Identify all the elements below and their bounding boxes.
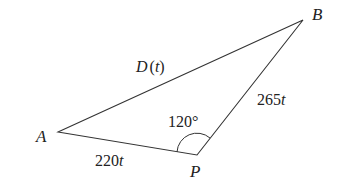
vertex-label-b: B [312, 5, 323, 24]
side-label-ab: D(t) [135, 58, 165, 76]
side-label-pb: 265t [257, 91, 286, 108]
triangle-diagram: A B P D(t) 220t 265t 120° [0, 0, 341, 193]
vertex-label-p: P [189, 162, 200, 181]
vertex-label-a: A [35, 127, 47, 146]
angle-arc-p [177, 133, 210, 152]
angle-label-p: 120° [168, 113, 198, 130]
side-label-ap: 220t [95, 152, 124, 169]
triangle-apb [58, 20, 303, 155]
